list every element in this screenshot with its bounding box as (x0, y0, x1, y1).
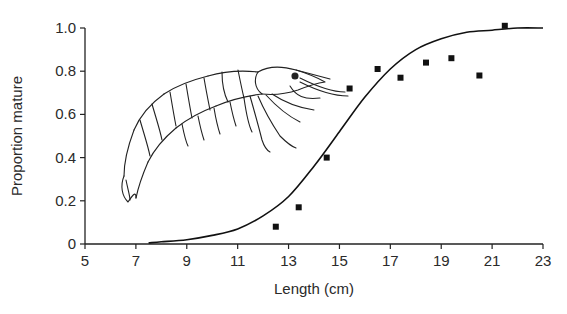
axes (85, 28, 543, 244)
data-points (273, 23, 508, 230)
data-point-square (347, 86, 353, 92)
x-tick-label: 17 (382, 252, 399, 269)
y-tick-label: 1.0 (55, 19, 76, 36)
y-tick-label: 0.2 (55, 192, 76, 209)
x-axis-ticks: 57911131517192123 (81, 244, 552, 269)
x-tick-label: 7 (132, 252, 140, 269)
x-axis-title: Length (cm) (274, 280, 354, 297)
shrimp-illustration (122, 67, 348, 202)
data-point-square (273, 224, 279, 230)
x-tick-label: 5 (81, 252, 89, 269)
data-point-square (324, 155, 330, 161)
y-tick-label: 0.4 (55, 149, 76, 166)
y-tick-label: 0 (68, 235, 76, 252)
data-point-square (476, 73, 482, 79)
data-point-square (398, 75, 404, 81)
fitted-curve (149, 28, 543, 243)
x-tick-label: 19 (433, 252, 450, 269)
x-tick-label: 23 (535, 252, 552, 269)
x-tick-label: 21 (484, 252, 501, 269)
x-tick-label: 15 (331, 252, 348, 269)
data-point-square (448, 55, 454, 61)
data-point-square (375, 66, 381, 72)
y-axis-title: Proportion mature (8, 76, 25, 196)
x-tick-label: 9 (183, 252, 191, 269)
x-tick-label: 11 (230, 252, 246, 269)
data-point-square (423, 60, 429, 66)
data-point-square (502, 23, 508, 29)
maturity-chart: 00.20.40.60.81.0 57911131517192123 Lengt… (0, 0, 567, 314)
y-tick-label: 0.8 (55, 62, 76, 79)
data-point-square (296, 204, 302, 210)
y-tick-label: 0.6 (55, 105, 76, 122)
y-axis-ticks: 00.20.40.60.81.0 (55, 19, 85, 252)
x-tick-label: 13 (280, 252, 297, 269)
